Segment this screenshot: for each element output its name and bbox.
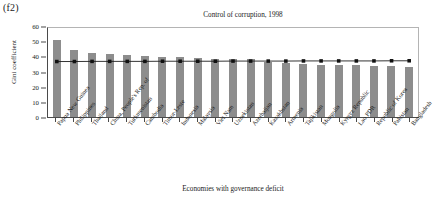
- x-label-slot: Tajikistan: [300, 122, 308, 184]
- x-label-slot: Uzbekistan: [229, 122, 237, 184]
- y-tick-mark: [41, 42, 46, 43]
- line-marker: [90, 60, 94, 64]
- line-marker: [337, 59, 341, 63]
- line-marker: [108, 60, 112, 64]
- x-label-slot: Malaysia: [193, 122, 201, 184]
- x-label-slot: Papua New Guinea: [52, 122, 60, 184]
- line-marker: [125, 60, 129, 64]
- line-marker: [55, 60, 59, 64]
- line-marker: [266, 59, 270, 63]
- y-tick-label: 30: [32, 69, 39, 76]
- line-marker: [143, 60, 147, 64]
- y-tick-label: 10: [32, 99, 39, 106]
- line-marker: [214, 59, 218, 63]
- y-tick-mark: [41, 102, 46, 103]
- line-marker: [231, 59, 235, 63]
- x-label-slot: Kazakhstan: [264, 122, 272, 184]
- line-marker: [355, 59, 359, 63]
- x-label-slot: Mongolia: [317, 122, 325, 184]
- line-marker: [161, 59, 165, 63]
- x-axis-title: Economies with governance deficit: [47, 185, 419, 193]
- y-tick-mark: [41, 72, 46, 73]
- x-label-slot: Republic of Korea: [371, 122, 379, 184]
- y-tick-mark: [41, 27, 46, 28]
- y-tick-label: 0: [36, 115, 39, 122]
- x-label-slot: Turkmenistan: [123, 122, 131, 184]
- line-marker: [196, 59, 200, 63]
- x-label-slot: Thailand: [87, 122, 95, 184]
- x-label-slot: Cambodia: [140, 122, 148, 184]
- x-label-slot: Pakistan: [388, 122, 396, 184]
- x-axis-labels: Papua New GuineaPhilippinesThailandChina…: [47, 122, 419, 184]
- y-axis-ticks: 0102030405060: [0, 27, 47, 118]
- x-label-slot: Armenia: [282, 122, 290, 184]
- line-marker: [390, 59, 394, 63]
- y-tick-label: 50: [32, 39, 39, 46]
- line-marker: [249, 59, 253, 63]
- y-tick-mark: [41, 87, 46, 88]
- y-tick-label: 60: [32, 24, 39, 31]
- y-tick-label: 40: [32, 54, 39, 61]
- line-marker: [73, 60, 77, 64]
- line-marker: [178, 59, 182, 63]
- line-marker: [407, 59, 411, 63]
- x-label-slot: Bangladesh: [406, 122, 414, 184]
- line-marker: [319, 59, 323, 63]
- chart-title: Control of corruption, 1998: [0, 11, 426, 19]
- line-marker: [302, 59, 306, 63]
- y-tick-label: 20: [32, 84, 39, 91]
- y-tick-mark: [41, 57, 46, 58]
- y-tick-mark: [41, 118, 46, 119]
- average-line-series: [48, 28, 418, 117]
- x-label-slot: Lao PDR: [353, 122, 361, 184]
- x-label-slot: Philippines: [70, 122, 78, 184]
- x-label-slot: Azerbaijan: [247, 122, 255, 184]
- line-marker: [372, 59, 376, 63]
- x-label-slot: Viet Nam: [211, 122, 219, 184]
- line-marker: [284, 59, 288, 63]
- x-label-slot: Indonesia: [176, 122, 184, 184]
- x-label-slot: China, People's Rep. of: [105, 122, 113, 184]
- x-label-slot: Kyrgyz Republic: [335, 122, 343, 184]
- x-label-slot: Timor-Leste: [158, 122, 166, 184]
